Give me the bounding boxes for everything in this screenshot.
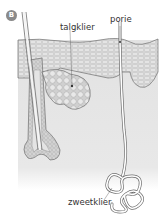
label-zweetklier: zweetklier	[68, 197, 112, 207]
label-porie: porie	[110, 14, 132, 24]
skin-cross-section-diagram	[0, 0, 165, 217]
label-talgklier: talgklier	[60, 22, 95, 32]
gland-nucleus	[71, 85, 73, 87]
